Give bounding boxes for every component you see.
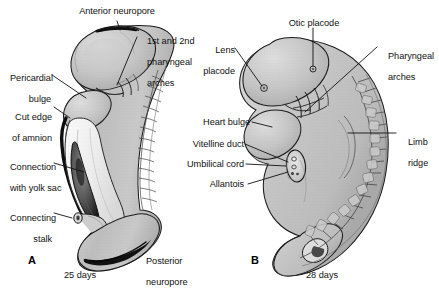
label-posterior-line1: Posterior <box>146 256 182 266</box>
label-lens-line2: placode <box>203 66 235 76</box>
label-pharyngeal-arches-line3: arches <box>147 78 174 88</box>
label-yolk-sac-line2: with yolk sac <box>10 183 61 193</box>
label-allantois: Allantois <box>190 179 244 189</box>
panel-letter-b: B <box>251 254 259 266</box>
label-vitelline-duct: Vitelline duct <box>172 139 244 149</box>
label-umbilical-cord: Umbilical cord <box>166 159 244 169</box>
label-pharyngeal-arches-b: Pharyngeal arches <box>378 41 439 93</box>
panel-a-caption-days: 25 days <box>44 270 116 280</box>
embryo-development-figure: Anterior neuropore 1st and 2nd pharyngea… <box>0 0 439 291</box>
label-anterior-neuropore: Anterior neuropore <box>52 6 182 16</box>
label-heart-bulge: Heart bulge <box>182 117 250 127</box>
panel-b-caption-days: 28 days <box>286 270 358 280</box>
leader-connecting-stalk <box>54 213 72 218</box>
label-limb-ridge: Limb ridge <box>398 127 438 179</box>
label-pharyngeal-b-line1: Pharyngeal <box>388 51 434 61</box>
label-connection-with-yolk-sac: Connection with yolk sac <box>0 152 53 204</box>
label-connecting-stalk-line1: Connecting <box>10 213 56 223</box>
allantois-lumen <box>292 157 297 161</box>
vitelline-duct-lumen <box>292 165 296 169</box>
label-limb-line2: ridge <box>408 158 428 168</box>
label-pharyngeal-arches-line2: pharyngeal <box>147 57 192 67</box>
label-connecting-stalk-line2: stalk <box>33 234 52 244</box>
label-cut-edge-of-amnion: Cut edge of amnion <box>0 102 52 154</box>
label-otic-placode: Otic placode <box>268 18 360 28</box>
label-cut-edge-line1: Cut edge <box>15 112 52 122</box>
label-lens-placode: Lens placode <box>188 35 235 87</box>
label-posterior-neuropore: Posterior neuropore <box>136 246 196 291</box>
label-posterior-line2: neuropore <box>146 277 187 287</box>
panel-letter-a: A <box>28 254 36 266</box>
label-limb-line1: Limb <box>408 137 428 147</box>
label-pharyngeal-b-line2: arches <box>388 72 415 82</box>
label-lens-line1: Lens <box>215 45 235 55</box>
label-cut-edge-line2: of amnion <box>12 133 52 143</box>
label-connecting-stalk: Connecting stalk <box>0 203 52 255</box>
label-pericardial-line1: Pericardial <box>10 73 53 83</box>
embryo-b-drawing <box>235 28 396 276</box>
label-yolk-sac-line1: Connection <box>10 162 56 172</box>
otic-placode-mark <box>310 66 316 72</box>
